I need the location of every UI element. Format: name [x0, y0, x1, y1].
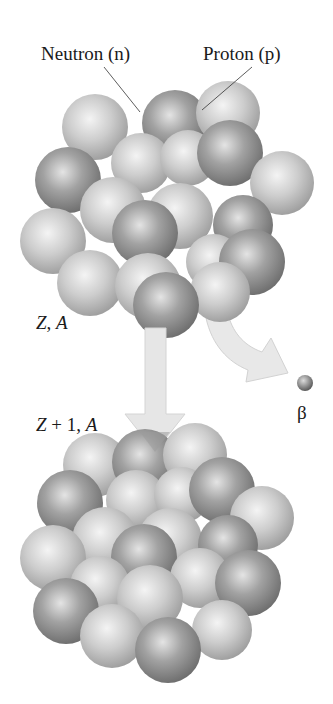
beta-emission-arrow: [206, 314, 288, 382]
proton-label: Proton (p): [203, 44, 281, 63]
daughter-a: A: [86, 414, 98, 435]
diagram-canvas: [0, 0, 333, 704]
proton-sphere: [192, 600, 252, 660]
parent-z: Z: [36, 312, 47, 333]
neutron-label: Neutron (n): [41, 44, 130, 63]
proton-sphere: [80, 604, 144, 668]
parent-a: A: [56, 312, 68, 333]
parent-sep: ,: [47, 312, 57, 333]
daughter-z: Z: [36, 414, 47, 435]
parent-label: Z, A: [36, 313, 68, 332]
neutron-sphere: [135, 617, 201, 683]
daughter-nucleus: [20, 423, 294, 683]
beta-label: β: [297, 403, 307, 422]
parent-nucleus: [20, 81, 314, 338]
daughter-label: Z + 1, A: [36, 415, 97, 434]
beta-decay-diagram: Neutron (n) Proton (p) Z, A Z + 1, A β: [0, 0, 333, 704]
proton-sphere: [57, 250, 123, 316]
daughter-plus: + 1,: [47, 414, 86, 435]
beta-particle: [297, 375, 313, 391]
proton-sphere: [190, 262, 250, 322]
